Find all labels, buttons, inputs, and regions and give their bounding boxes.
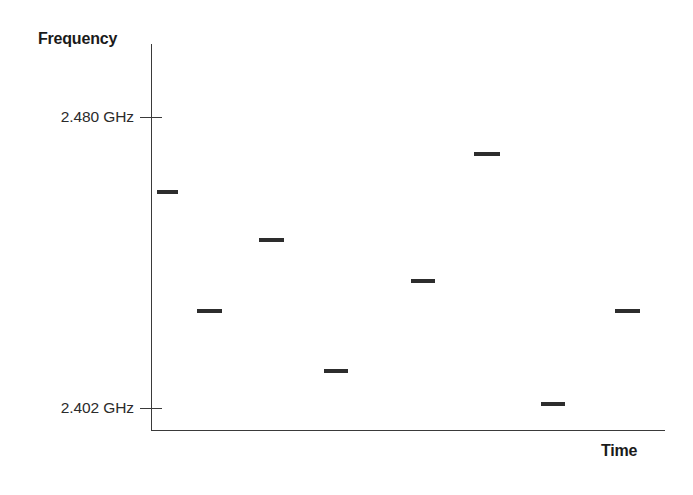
x-axis-line	[151, 430, 665, 431]
y-axis-tick-label-upper: 2.480 GHz	[26, 108, 134, 126]
hop-mark	[541, 402, 565, 406]
hop-mark	[615, 309, 640, 313]
hop-mark	[474, 152, 500, 156]
plot-area	[0, 0, 693, 495]
hop-mark	[259, 238, 284, 242]
y-axis-tick-label-lower: 2.402 GHz	[26, 399, 134, 417]
frequency-hopping-chart: 2.480 GHz 2.402 GHz Frequency Time	[0, 0, 693, 495]
hop-mark	[324, 369, 348, 373]
y-axis-tick-lower	[140, 408, 162, 409]
hop-mark	[197, 309, 222, 313]
hop-mark	[157, 190, 178, 194]
x-axis-title: Time	[601, 442, 637, 460]
y-axis-line	[151, 44, 152, 431]
y-axis-tick-upper	[140, 117, 162, 118]
y-axis-title: Frequency	[38, 30, 117, 48]
hop-mark	[411, 279, 435, 283]
